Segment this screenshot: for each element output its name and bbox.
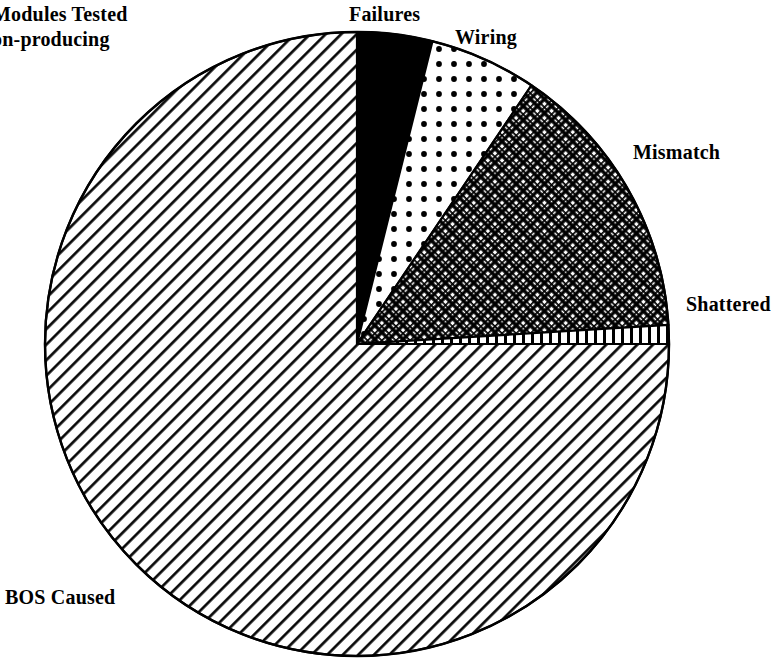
slice-label-shattered: Shattered — [686, 292, 771, 317]
chart-title-line2: on-producing — [0, 28, 110, 50]
slice-label-failures: Failures — [349, 2, 420, 27]
slice-label-wiring: Wiring — [455, 25, 517, 50]
chart-title: Modules Testedon-producing — [0, 2, 128, 52]
chart-title-line1: Modules Tested — [0, 3, 128, 25]
pie-chart-svg — [0, 0, 773, 658]
slice-label-bos-caused: BOS Caused — [5, 585, 115, 610]
slice-label-mismatch: Mismatch — [633, 140, 720, 165]
pie-slices-group — [45, 32, 669, 656]
pie-chart-figure: Modules Testedon-producing Failures Wiri… — [0, 0, 773, 658]
